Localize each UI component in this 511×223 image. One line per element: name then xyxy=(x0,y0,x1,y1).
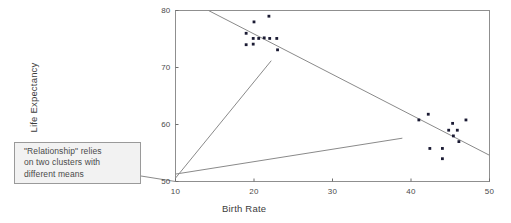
data-point xyxy=(245,43,248,46)
x-tick-label-30: 30 xyxy=(322,187,344,196)
y-tick-label-50: 50 xyxy=(149,177,171,186)
x-tick-label-40: 40 xyxy=(400,187,422,196)
plot-frame xyxy=(176,11,490,182)
data-point xyxy=(253,21,256,24)
callout-line-2: on two clusters with xyxy=(24,157,140,168)
x-tick-label-10: 10 xyxy=(165,187,187,196)
callout-line-1: "Relationship" relies xyxy=(24,146,140,157)
cluster-slope-line-shallow xyxy=(176,138,403,174)
data-point xyxy=(268,15,271,18)
callout-line-3: different means xyxy=(24,169,140,180)
data-point xyxy=(427,113,430,116)
data-points xyxy=(245,15,468,160)
overall-regression-line xyxy=(208,11,489,156)
data-point xyxy=(428,147,431,150)
data-point xyxy=(457,140,460,143)
x-tick-label-50: 50 xyxy=(479,187,501,196)
data-point xyxy=(252,37,255,40)
regression-lines xyxy=(176,11,490,179)
y-tick-label-70: 70 xyxy=(149,63,171,72)
axis-tick-marks xyxy=(176,11,490,182)
x-axis-title: Birth Rate xyxy=(222,203,266,214)
annotation-callout-box: "Relationship" relies on two clusters wi… xyxy=(14,142,141,184)
data-point xyxy=(465,119,468,122)
y-tick-label-80: 80 xyxy=(149,6,171,15)
x-tick-label-20: 20 xyxy=(243,187,265,196)
data-point xyxy=(441,147,444,150)
data-point xyxy=(276,48,279,51)
plot-frame-rect xyxy=(176,11,490,182)
data-point xyxy=(245,32,248,35)
data-point xyxy=(451,122,454,125)
data-point xyxy=(452,135,455,138)
data-point xyxy=(456,129,459,132)
data-point xyxy=(263,36,266,39)
scatter-plot-figure: 50607080 1020304050 Birth Rate Life Expe… xyxy=(0,0,511,223)
data-point xyxy=(257,37,260,40)
data-point xyxy=(275,37,278,40)
data-point xyxy=(417,119,420,122)
data-point xyxy=(447,129,450,132)
y-axis-title: Life Expectancy xyxy=(28,48,39,148)
y-tick-label-60: 60 xyxy=(149,120,171,129)
data-point xyxy=(268,37,271,40)
data-point xyxy=(441,157,444,160)
cluster-slope-line-steep xyxy=(176,61,272,178)
data-point xyxy=(252,43,255,46)
